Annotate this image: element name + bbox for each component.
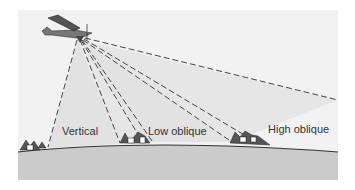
high-oblique-label: High oblique [268, 123, 329, 135]
low-oblique-label: Low oblique [148, 125, 207, 137]
aerial-photography-diagram: Vertical Low oblique High oblique [0, 0, 355, 190]
vertical-label: Vertical [62, 125, 98, 137]
ground [18, 145, 338, 180]
diagram-canvas [0, 0, 355, 190]
